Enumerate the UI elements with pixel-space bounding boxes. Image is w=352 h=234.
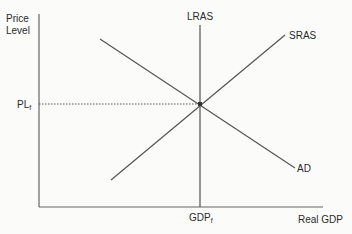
equilibrium-point [198, 102, 202, 106]
y-axis-label-line1: Price [6, 13, 29, 24]
price-level-label: PLf [17, 99, 31, 111]
y-axis-label-line2: Level [6, 25, 30, 36]
lras-label: LRAS [187, 11, 213, 22]
x-axis-label: Real GDP [298, 214, 343, 225]
sras-label: SRAS [289, 30, 317, 41]
ad-as-diagram: Price Level LRAS SRAS AD PLf GDPf Real G… [0, 0, 352, 234]
gdp-full-label: GDPf [189, 212, 213, 224]
sras-curve [111, 35, 285, 180]
ad-label: AD [297, 163, 311, 174]
